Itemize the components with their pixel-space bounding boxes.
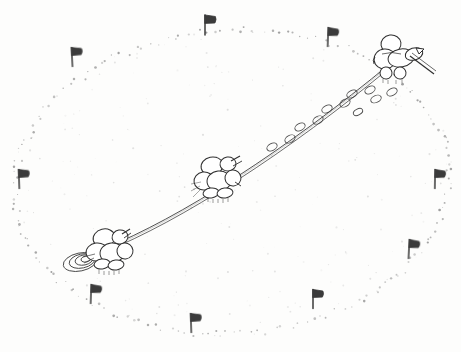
- sketch-drawing: [0, 0, 461, 352]
- sketch-canvas: Three figures hauling a tow-line across …: [0, 0, 461, 352]
